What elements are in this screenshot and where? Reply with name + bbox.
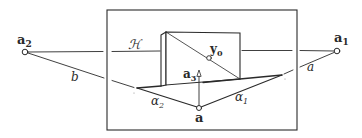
line-b-inner bbox=[112, 81, 134, 88]
slab-side-face bbox=[161, 32, 166, 86]
line-b-outer bbox=[28, 53, 104, 78]
horizon-line-left-outer bbox=[28, 52, 103, 53]
base-line-left bbox=[137, 86, 161, 88]
label-a: a bbox=[195, 110, 204, 125]
point-a1-icon bbox=[334, 48, 340, 54]
vanishing-dot-left bbox=[134, 93, 135, 94]
line-alpha2 bbox=[137, 88, 197, 107]
label-H: ℋ bbox=[128, 37, 143, 52]
point-a2-icon bbox=[22, 49, 28, 55]
label-a1: a1 bbox=[334, 30, 349, 47]
label-alpha1: α1 bbox=[235, 90, 248, 106]
line-a-inner bbox=[284, 70, 293, 74]
point-y0-icon bbox=[207, 56, 212, 61]
label-b: b bbox=[71, 70, 79, 84]
line-a-outer bbox=[300, 53, 334, 68]
label-a2: a2 bbox=[17, 32, 32, 49]
horizon-line-right-outer bbox=[300, 51, 334, 52]
projection-diagram: a2 a1 y0 a3 a ℋ b a α2 α1 bbox=[0, 0, 362, 138]
slab-front-face bbox=[166, 32, 240, 85]
vanishing-dot-right bbox=[285, 79, 286, 80]
label-a-line: a bbox=[307, 60, 314, 74]
